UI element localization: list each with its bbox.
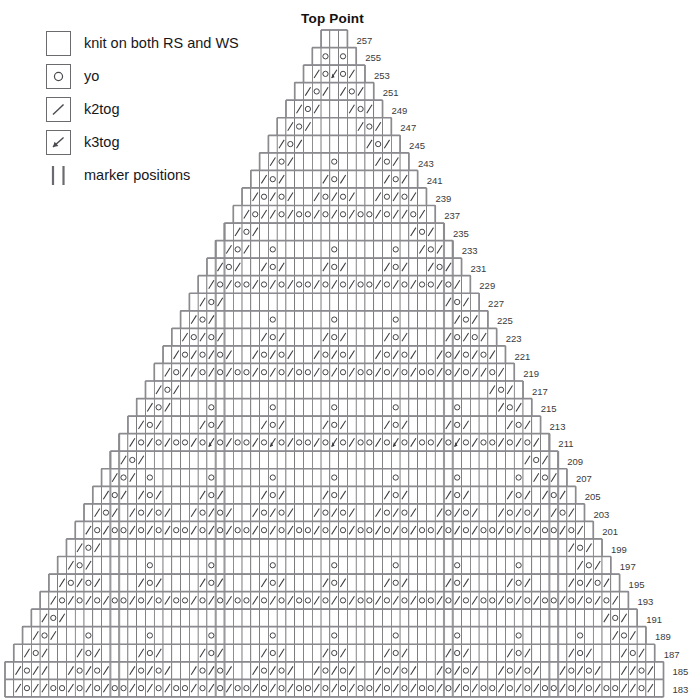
row-number: 197	[620, 561, 636, 572]
row-number: 201	[602, 526, 618, 537]
row-number: 245	[409, 140, 425, 151]
row-number: 243	[418, 158, 434, 169]
row-number: 235	[453, 228, 469, 239]
row-number: 183	[673, 684, 689, 695]
row-number: 209	[567, 456, 583, 467]
knitting-chart: 2572552532512492472452432412392372352332…	[0, 0, 689, 700]
row-number: 227	[488, 298, 504, 309]
row-number: 203	[593, 509, 609, 520]
row-number: 251	[383, 87, 399, 98]
row-number: 241	[427, 175, 443, 186]
row-number: 255	[365, 52, 381, 63]
row-number: 213	[550, 421, 566, 432]
row-number: 249	[392, 105, 408, 116]
row-number: 253	[374, 70, 390, 81]
row-number: 211	[558, 438, 573, 449]
row-number: 223	[506, 333, 522, 344]
row-number: 207	[576, 473, 592, 484]
row-number: 231	[471, 263, 487, 274]
chart-svg: 2572552532512492472452432412392372352332…	[0, 0, 689, 700]
row-number: 233	[462, 245, 478, 256]
row-number: 199	[611, 544, 627, 555]
row-number: 193	[637, 596, 653, 607]
row-number: 187	[664, 649, 680, 660]
row-number: 219	[523, 368, 539, 379]
row-number: 215	[541, 403, 557, 414]
row-number: 195	[629, 579, 645, 590]
row-number: 247	[400, 122, 416, 133]
row-number: 185	[673, 666, 689, 677]
row-number: 229	[479, 280, 495, 291]
row-number: 205	[585, 491, 601, 502]
row-number: 217	[532, 386, 548, 397]
row-number: 225	[497, 315, 513, 326]
row-number: 191	[646, 614, 662, 625]
row-number: 189	[655, 631, 671, 642]
row-number: 257	[356, 35, 372, 46]
row-number: 221	[514, 351, 530, 362]
row-number: 237	[444, 210, 460, 221]
row-number: 239	[435, 193, 451, 204]
